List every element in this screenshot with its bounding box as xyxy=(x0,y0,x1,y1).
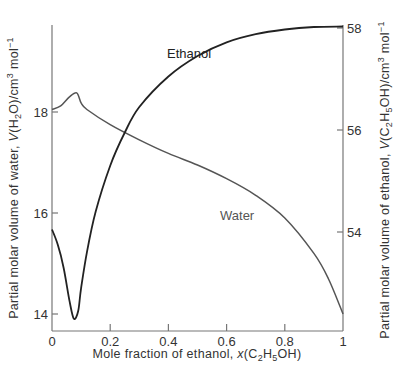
x-tick-label: 1 xyxy=(339,334,346,349)
left-y-axis-title: Partial molar volume of water, V(H2O)/cm… xyxy=(5,37,23,319)
right-y-axis-ticks: 545658 xyxy=(337,21,361,240)
right-y-tick-label: 54 xyxy=(347,225,361,240)
water-series-line xyxy=(52,93,343,314)
right-y-tick-label: 58 xyxy=(347,21,361,36)
x-axis-ticks: 00.20.40.60.81 xyxy=(48,324,346,349)
left-y-axis-ticks: 141618 xyxy=(34,105,58,322)
ethanol-series-label: Ethanol xyxy=(167,46,211,61)
water-series-label: Water xyxy=(220,208,255,223)
right-y-axis-title: Partial molar volume of ethanol, V(C2H5O… xyxy=(376,21,394,338)
x-axis-title: Mole fraction of ethanol, x(C2H5OH) xyxy=(93,347,302,363)
partial-molar-volume-chart: 00.20.40.60.81 141618 545658 Ethanol Wat… xyxy=(0,0,402,381)
left-y-tick-label: 14 xyxy=(34,307,48,322)
ethanol-series-line xyxy=(52,27,343,320)
x-tick-label: 0 xyxy=(48,334,55,349)
right-y-tick-label: 56 xyxy=(347,123,361,138)
left-y-tick-label: 16 xyxy=(34,206,48,221)
left-y-tick-label: 18 xyxy=(34,105,48,120)
